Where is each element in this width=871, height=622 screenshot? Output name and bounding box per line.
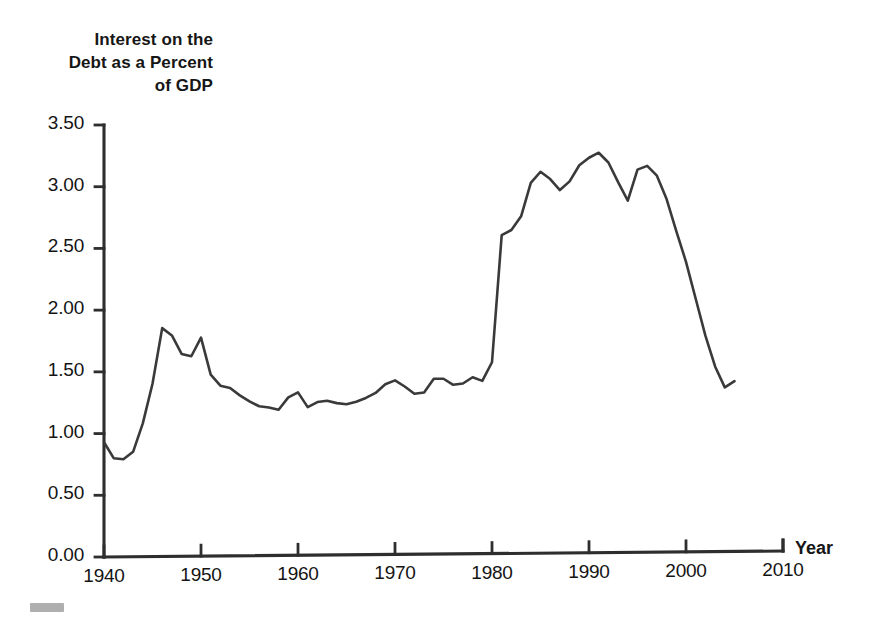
y-tick-label: 1.00 xyxy=(16,421,84,443)
axis-lines xyxy=(104,125,783,557)
y-tick-label: 3.00 xyxy=(16,174,84,196)
x-axis-line xyxy=(104,551,783,557)
x-tick-label: 1950 xyxy=(165,564,237,586)
y-tick-label: 2.50 xyxy=(16,235,84,257)
x-axis-title: Year xyxy=(795,538,833,559)
page-artifact xyxy=(30,603,64,612)
plot-area xyxy=(0,0,871,622)
x-tick-label: 1960 xyxy=(262,563,334,585)
y-tick-label: 3.50 xyxy=(16,112,84,134)
y-tick-label: 2.00 xyxy=(16,297,84,319)
y-tick-label: 0.00 xyxy=(16,544,84,566)
y-tick-label: 0.50 xyxy=(16,482,84,504)
x-tick-label: 1970 xyxy=(359,562,431,584)
x-tick-label: 2000 xyxy=(650,560,722,582)
x-tick-label: 2010 xyxy=(747,559,819,581)
chart-figure: Interest on the Debt as a Percent of GDP… xyxy=(0,0,871,622)
y-tick-label: 1.50 xyxy=(16,359,84,381)
x-tick-label: 1940 xyxy=(68,565,140,587)
data-series-line xyxy=(104,153,735,460)
x-tick-label: 1990 xyxy=(553,561,625,583)
x-tick-label: 1980 xyxy=(456,562,528,584)
